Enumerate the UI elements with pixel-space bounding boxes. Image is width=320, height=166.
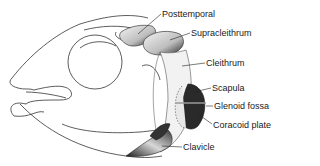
label-glenoid-fossa: Glenoid fossa: [214, 101, 269, 111]
label-coracoid-plate: Coracoid plate: [213, 120, 271, 130]
label-clavicle: Clavicle: [183, 142, 215, 152]
label-posttemporal: Posttemporal: [162, 9, 215, 19]
clavicle-bone: [126, 130, 172, 157]
eye-orbit: [68, 35, 122, 89]
opercle-curve: [142, 65, 160, 80]
label-scapula: Scapula: [212, 83, 245, 93]
label-supracleithrum: Supracleithrum: [191, 28, 252, 38]
label-cleithrum: Cleithrum: [206, 58, 245, 68]
